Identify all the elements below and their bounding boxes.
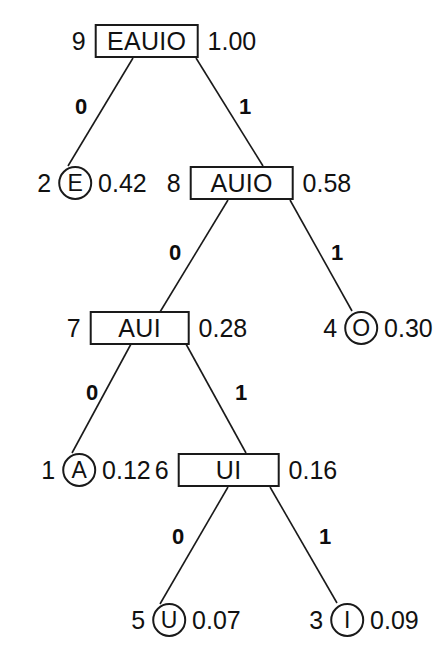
- node-ui-index: 6: [155, 458, 169, 483]
- node-e-probability: 0.42: [98, 171, 147, 196]
- edge-root-to-auio: [196, 58, 263, 166]
- node-aui-box[interactable]: AUI: [90, 311, 190, 345]
- node-eauio-probability: 1.00: [208, 29, 257, 54]
- node-auio-box[interactable]: AUIO: [190, 166, 294, 200]
- node-u-index: 5: [131, 608, 145, 633]
- node-auio-index: 8: [167, 171, 181, 196]
- node-a-circle[interactable]: A: [62, 453, 96, 487]
- edge-label-auio-right: 1: [331, 242, 343, 264]
- node-i-circle[interactable]: I: [330, 603, 364, 637]
- node-eauio-box[interactable]: EAUIO: [95, 24, 199, 58]
- huffman-tree-diagram: 9 EAUIO 1.00 2 E 0.42 8 AUIO 0.58 7 AUI …: [0, 0, 439, 655]
- node-ui-label: UI: [216, 456, 242, 485]
- node-a-label: A: [71, 457, 86, 484]
- node-o[interactable]: 4 O 0.30: [323, 311, 433, 345]
- edge-aui-to-a: [72, 344, 131, 453]
- node-a-index: 1: [41, 458, 55, 483]
- edge-label-ui-left: 0: [172, 526, 184, 548]
- node-o-probability: 0.30: [384, 316, 433, 341]
- node-o-circle[interactable]: O: [344, 311, 378, 345]
- node-auio-label: AUIO: [210, 169, 272, 198]
- node-e-index: 2: [37, 171, 51, 196]
- node-eauio[interactable]: 9 EAUIO 1.00: [72, 24, 257, 58]
- edge-label-ui-right: 1: [319, 526, 331, 548]
- node-auio-probability: 0.58: [303, 171, 352, 196]
- node-u-label: U: [161, 607, 178, 634]
- node-e[interactable]: 2 E 0.42: [37, 166, 147, 200]
- node-aui-index: 7: [67, 316, 81, 341]
- node-aui-label: AUI: [118, 314, 161, 343]
- node-i-index: 3: [309, 608, 323, 633]
- node-a-probability: 0.12: [102, 458, 151, 483]
- node-auio[interactable]: 8 AUIO 0.58: [167, 166, 352, 200]
- edge-label-auio-left: 0: [169, 242, 181, 264]
- edge-label-aui-right: 1: [235, 382, 247, 404]
- node-o-index: 4: [323, 316, 337, 341]
- node-aui-probability: 0.28: [199, 316, 248, 341]
- node-ui[interactable]: 6 UI 0.16: [155, 453, 338, 487]
- edge-label-root-right: 1: [239, 96, 251, 118]
- node-i[interactable]: 3 I 0.09: [309, 603, 419, 637]
- node-o-label: O: [352, 315, 370, 342]
- node-aui[interactable]: 7 AUI 0.28: [67, 311, 248, 345]
- edge-ui-to-u: [160, 487, 228, 604]
- node-u-probability: 0.07: [192, 608, 241, 633]
- node-e-label: E: [67, 170, 82, 197]
- node-ui-probability: 0.16: [289, 458, 338, 483]
- node-u-circle[interactable]: U: [152, 603, 186, 637]
- edge-label-aui-left: 0: [86, 382, 98, 404]
- node-e-circle[interactable]: E: [58, 166, 92, 200]
- edge-label-root-left: 0: [75, 96, 87, 118]
- node-eauio-label: EAUIO: [107, 27, 186, 56]
- node-eauio-index: 9: [72, 29, 86, 54]
- node-u[interactable]: 5 U 0.07: [131, 603, 241, 637]
- node-i-probability: 0.09: [370, 608, 419, 633]
- node-ui-box[interactable]: UI: [178, 453, 280, 487]
- node-i-label: I: [344, 607, 350, 634]
- node-a[interactable]: 1 A 0.12: [41, 453, 151, 487]
